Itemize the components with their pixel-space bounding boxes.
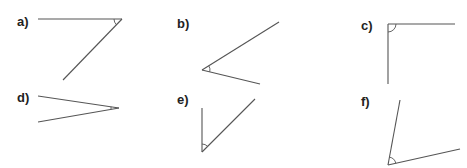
angle-d [38, 96, 119, 122]
ray-2 [38, 108, 119, 122]
angle-arc-icon [388, 24, 396, 32]
angle-label-e: e) [177, 92, 189, 107]
ray-1 [388, 100, 400, 165]
ray-2 [63, 19, 122, 80]
ray-1 [202, 22, 279, 70]
ray-2 [202, 99, 255, 152]
angle-arc-icon [389, 157, 395, 163]
angle-label-a: a) [17, 14, 29, 29]
angle-f [388, 100, 460, 165]
angle-e [202, 99, 255, 152]
angles-svg [0, 0, 467, 168]
ray-1 [38, 96, 119, 108]
ray-2 [388, 149, 460, 165]
angle-arc-icon [209, 66, 210, 72]
ray-2 [202, 70, 260, 84]
angle-b [202, 22, 279, 84]
angle-c [388, 24, 455, 84]
angle-arc-icon [202, 144, 208, 146]
angle-diagram-canvas: a)b)c)d)e)f) [0, 0, 467, 168]
angle-label-f: f) [361, 94, 370, 109]
angle-label-b: b) [177, 16, 189, 31]
angle-arc-icon [114, 19, 116, 25]
angle-label-d: d) [17, 90, 29, 105]
angle-a [38, 19, 122, 80]
angle-label-c: c) [361, 18, 373, 33]
